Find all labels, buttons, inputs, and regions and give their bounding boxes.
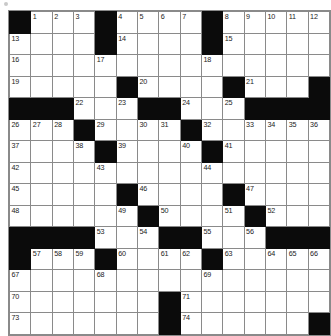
crossword-cell[interactable]: 52 (265, 205, 286, 227)
crossword-cell[interactable]: 70 (10, 291, 31, 313)
crossword-cell[interactable] (287, 313, 308, 335)
crossword-cell[interactable]: 17 (95, 55, 116, 77)
crossword-cell[interactable]: 35 (287, 119, 308, 141)
crossword-cell[interactable] (116, 119, 137, 141)
crossword-cell[interactable] (180, 33, 201, 55)
crossword-cell[interactable]: 27 (31, 119, 52, 141)
crossword-cell[interactable] (308, 205, 329, 227)
crossword-cell[interactable]: 68 (95, 270, 116, 292)
crossword-cell[interactable] (180, 270, 201, 292)
crossword-cell[interactable]: 49 (116, 205, 137, 227)
crossword-cell[interactable] (73, 33, 94, 55)
crossword-cell[interactable]: 20 (137, 76, 158, 98)
crossword-cell[interactable] (308, 33, 329, 55)
crossword-cell[interactable]: 61 (159, 248, 180, 270)
crossword-cell[interactable]: 6 (159, 12, 180, 34)
crossword-cell[interactable] (137, 291, 158, 313)
crossword-cell[interactable] (31, 270, 52, 292)
crossword-cell[interactable] (308, 291, 329, 313)
crossword-cell[interactable]: 18 (201, 55, 222, 77)
crossword-cell[interactable]: 71 (180, 291, 201, 313)
crossword-cell[interactable] (31, 184, 52, 206)
crossword-cell[interactable] (244, 313, 265, 335)
crossword-cell[interactable] (73, 184, 94, 206)
crossword-cell[interactable]: 40 (180, 141, 201, 163)
crossword-cell[interactable]: 67 (10, 270, 31, 292)
crossword-cell[interactable]: 53 (95, 227, 116, 249)
crossword-cell[interactable]: 25 (223, 98, 244, 120)
crossword-cell[interactable] (287, 270, 308, 292)
crossword-cell[interactable] (95, 98, 116, 120)
crossword-cell[interactable] (116, 291, 137, 313)
crossword-cell[interactable] (265, 270, 286, 292)
crossword-cell[interactable]: 63 (223, 248, 244, 270)
crossword-cell[interactable]: 24 (180, 98, 201, 120)
crossword-cell[interactable] (201, 313, 222, 335)
crossword-cell[interactable] (116, 55, 137, 77)
crossword-cell[interactable] (287, 184, 308, 206)
crossword-cell[interactable]: 26 (10, 119, 31, 141)
crossword-cell[interactable]: 65 (287, 248, 308, 270)
crossword-cell[interactable] (223, 119, 244, 141)
crossword-cell[interactable]: 32 (201, 119, 222, 141)
crossword-cell[interactable]: 7 (180, 12, 201, 34)
crossword-cell[interactable]: 4 (116, 12, 137, 34)
crossword-cell[interactable]: 37 (10, 141, 31, 163)
crossword-cell[interactable] (265, 141, 286, 163)
crossword-cell[interactable]: 33 (244, 119, 265, 141)
crossword-cell[interactable] (287, 205, 308, 227)
crossword-cell[interactable] (265, 313, 286, 335)
crossword-cell[interactable] (95, 184, 116, 206)
crossword-cell[interactable] (308, 270, 329, 292)
crossword-cell[interactable]: 58 (52, 248, 73, 270)
crossword-cell[interactable] (287, 76, 308, 98)
crossword-cell[interactable] (223, 291, 244, 313)
crossword-cell[interactable] (201, 291, 222, 313)
crossword-cell[interactable]: 36 (308, 119, 329, 141)
crossword-cell[interactable] (159, 33, 180, 55)
crossword-cell[interactable] (201, 184, 222, 206)
crossword-cell[interactable]: 22 (73, 98, 94, 120)
crossword-cell[interactable] (73, 291, 94, 313)
crossword-cell[interactable]: 50 (159, 205, 180, 227)
crossword-cell[interactable] (244, 270, 265, 292)
crossword-cell[interactable] (159, 55, 180, 77)
crossword-cell[interactable] (308, 184, 329, 206)
crossword-cell[interactable] (73, 270, 94, 292)
crossword-cell[interactable] (116, 162, 137, 184)
crossword-cell[interactable] (265, 291, 286, 313)
crossword-cell[interactable]: 16 (10, 55, 31, 77)
crossword-cell[interactable] (137, 55, 158, 77)
crossword-cell[interactable] (265, 33, 286, 55)
crossword-cell[interactable] (31, 55, 52, 77)
crossword-cell[interactable]: 62 (180, 248, 201, 270)
crossword-cell[interactable]: 1 (31, 12, 52, 34)
crossword-cell[interactable] (180, 162, 201, 184)
crossword-cell[interactable] (287, 55, 308, 77)
crossword-cell[interactable] (95, 205, 116, 227)
crossword-cell[interactable] (52, 184, 73, 206)
crossword-cell[interactable] (137, 313, 158, 335)
crossword-cell[interactable] (73, 205, 94, 227)
crossword-cell[interactable]: 64 (265, 248, 286, 270)
crossword-cell[interactable] (244, 55, 265, 77)
crossword-cell[interactable]: 73 (10, 313, 31, 335)
crossword-cell[interactable]: 39 (116, 141, 137, 163)
crossword-cell[interactable] (180, 55, 201, 77)
crossword-cell[interactable] (73, 76, 94, 98)
crossword-cell[interactable] (308, 55, 329, 77)
crossword-cell[interactable]: 48 (10, 205, 31, 227)
crossword-cell[interactable]: 34 (265, 119, 286, 141)
crossword-cell[interactable] (159, 162, 180, 184)
crossword-cell[interactable] (159, 141, 180, 163)
crossword-cell[interactable] (244, 33, 265, 55)
crossword-cell[interactable]: 57 (31, 248, 52, 270)
crossword-cell[interactable] (31, 162, 52, 184)
crossword-cell[interactable] (137, 33, 158, 55)
crossword-cell[interactable]: 43 (95, 162, 116, 184)
crossword-cell[interactable]: 15 (223, 33, 244, 55)
crossword-cell[interactable]: 8 (223, 12, 244, 34)
crossword-cell[interactable]: 23 (116, 98, 137, 120)
crossword-cell[interactable]: 5 (137, 12, 158, 34)
crossword-cell[interactable]: 74 (180, 313, 201, 335)
